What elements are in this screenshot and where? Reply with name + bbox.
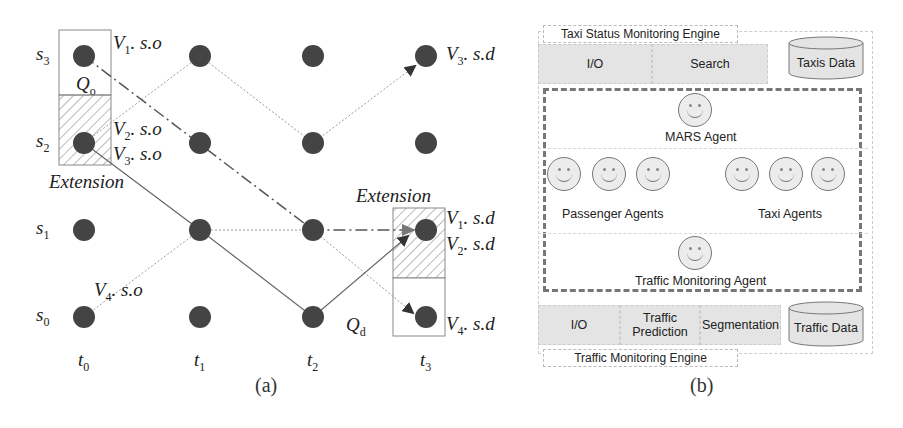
row-label-s0: s0 xyxy=(36,305,49,328)
top-io-block: I/O xyxy=(538,44,652,84)
label-v2-sd: V2. s.d xyxy=(446,234,495,257)
panel-b-architecture-diagram: Taxi Status Monitoring Engine I/O Search… xyxy=(530,0,903,428)
col-label-t3: t3 xyxy=(420,350,431,373)
label-v1-sd: V1. s.d xyxy=(446,208,495,231)
taxi-agent-icon xyxy=(769,157,803,191)
traffic-data-store: Traffic Data xyxy=(788,301,864,347)
label-v2-so: V2. s.o xyxy=(113,119,162,142)
caption-a: (a) xyxy=(255,374,277,397)
label-qd: Qd xyxy=(346,315,366,338)
label-v4-sd: V4. s.d xyxy=(446,314,495,337)
destination-extension-box xyxy=(393,208,445,278)
taxi-agents-label: Taxi Agents xyxy=(758,207,822,221)
bottom-io-block: I/O xyxy=(538,305,620,345)
col-label-t0: t0 xyxy=(78,350,89,373)
divider xyxy=(538,233,868,234)
label-v3-sd: V3. s.d xyxy=(446,44,495,67)
caption-b: (b) xyxy=(690,374,713,397)
traffic-monitoring-engine-title: Traffic Monitoring Engine xyxy=(543,349,738,367)
passenger-agents-label: Passenger Agents xyxy=(562,207,663,221)
label-qo: Qo xyxy=(76,74,96,97)
row-label-s3: s3 xyxy=(36,44,49,67)
taxis-data-store: Taxis Data xyxy=(788,36,864,80)
segmentation-block: Segmentation xyxy=(700,305,781,345)
taxi-status-engine-title: Taxi Status Monitoring Engine xyxy=(543,25,738,43)
traffic-monitoring-agent-icon xyxy=(678,236,712,270)
passenger-agent-icon xyxy=(592,157,626,191)
label-extension-destination: Extension xyxy=(356,186,431,205)
row-label-s1: s1 xyxy=(36,218,49,241)
panel-a-trajectory-diagram: s3 s2 s1 s0 t0 t1 t2 t3 V1. s.o V2. s.o … xyxy=(0,0,530,428)
traffic-data-label: Traffic Data xyxy=(788,321,864,335)
qd-box xyxy=(393,278,445,336)
taxi-agent-icon xyxy=(811,157,845,191)
mars-agent-icon xyxy=(678,93,712,127)
passenger-agent-icon xyxy=(636,157,670,191)
mars-agent-label: MARS Agent xyxy=(665,130,737,144)
taxis-data-label: Taxis Data xyxy=(788,56,864,70)
origin-extension-box xyxy=(59,95,111,165)
label-v4-so: V4. s.o xyxy=(94,280,143,303)
label-extension-origin: Extension xyxy=(49,172,124,191)
label-v3-so: V3. s.o xyxy=(113,144,162,167)
divider xyxy=(538,148,868,149)
col-label-t2: t2 xyxy=(307,350,318,373)
label-v1-so: V1. s.o xyxy=(113,33,162,56)
traffic-prediction-block: Traffic Prediction xyxy=(620,305,700,345)
taxi-agent-icon xyxy=(725,157,759,191)
passenger-agent-icon xyxy=(547,157,581,191)
traffic-monitoring-agent-label: Traffic Monitoring Agent xyxy=(635,274,766,288)
row-label-s2: s2 xyxy=(36,131,49,154)
search-block: Search xyxy=(652,44,768,84)
col-label-t1: t1 xyxy=(194,350,205,373)
